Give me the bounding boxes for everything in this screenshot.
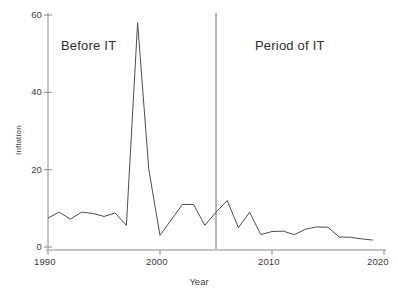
x-tick-label-2020: 2020 [367,256,389,267]
period-of-it-label: Period of IT [255,38,325,53]
y-tick-label-60: 60 [22,9,42,20]
y-tick-label-0: 0 [22,241,42,252]
y-tick-label-20: 20 [22,164,42,175]
y-axis-title: Inflation [14,125,23,155]
before-it-label: Before IT [61,38,116,53]
x-tick-marks [48,250,384,255]
x-tick-label-2010: 2010 [258,256,280,267]
x-axis-title: Year [189,276,208,287]
inflation-line-chart: 60 40 20 0 1990 2000 2010 2020 Year Infl… [0,0,398,305]
y-tick-label-40: 40 [22,86,42,97]
x-tick-label-1990: 1990 [34,256,56,267]
plot-canvas [0,0,398,305]
x-tick-label-2000: 2000 [146,256,168,267]
inflation-series-line [48,23,373,240]
